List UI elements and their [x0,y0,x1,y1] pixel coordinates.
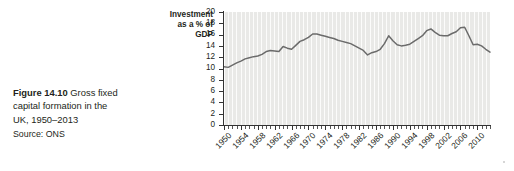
x-tick-minor [279,126,280,129]
scan-artifact-speck [503,161,505,163]
x-tick-minor [262,126,263,129]
x-tick-minor [418,126,419,129]
figure-caption: Figure 14.10 Gross fixed capital formati… [13,86,163,142]
x-tick-minor [380,126,381,129]
x-tick-label: 1958 [248,131,267,150]
y-tick-label: 18 [161,19,215,27]
caption-line-1: Figure 14.10 Gross fixed [13,86,163,99]
series-line [224,12,490,125]
x-tick-minor [422,126,423,129]
x-tick-minor [266,126,267,129]
x-tick-label: 1982 [349,131,368,150]
x-tick-minor [270,126,271,129]
x-tick-label: 1990 [383,131,402,150]
x-tick-label: 2002 [433,131,452,150]
x-tick-minor [431,126,432,129]
y-tick [219,69,223,70]
x-tick-minor [448,126,449,129]
x-tick-minor [304,126,305,129]
x-tick-major [410,126,411,130]
x-tick-label: 1962 [264,131,283,150]
x-tick-minor [439,126,440,129]
x-tick-minor [384,126,385,129]
x-tick-major [359,126,360,130]
x-tick-minor [330,126,331,129]
plot-area [224,12,490,125]
x-tick-minor [355,126,356,129]
y-tick [219,46,223,47]
y-tick-label: 20 [161,8,215,16]
y-axis-line [223,11,224,126]
y-tick [219,102,223,103]
y-tick [219,23,223,24]
y-tick-label: 2 [161,110,215,118]
figure-number: Figure 14.10 [13,87,68,98]
x-tick-minor [465,126,466,129]
y-tick-label: 6 [161,87,215,95]
x-tick-minor [473,126,474,129]
x-tick-minor [245,126,246,129]
y-tick-label: 4 [161,98,215,106]
caption-source: Source: ONS [13,128,163,141]
x-tick-label: 1966 [281,131,300,150]
x-tick-minor [313,126,314,129]
x-tick-minor [490,126,491,129]
x-tick-label: 1954 [231,131,250,150]
x-tick-minor [397,126,398,129]
x-tick-major [275,126,276,130]
line-chart: Investment as a % of GDP 201816141210864… [155,8,505,168]
y-tick-label: 14 [161,42,215,50]
x-tick-major [241,126,242,130]
x-tick-major [342,126,343,130]
x-tick-minor [317,126,318,129]
x-tick-minor [469,126,470,129]
x-tick-minor [486,126,487,129]
x-tick-label: 1994 [400,131,419,150]
x-tick-major [376,126,377,130]
x-tick-major [477,126,478,130]
caption-line-2: capital formation in the [13,99,163,112]
x-tick-minor [406,126,407,129]
x-tick-label: 1978 [332,131,351,150]
y-tick-label: 12 [161,53,215,61]
x-tick-label: 1970 [298,131,317,150]
x-tick-minor [389,126,390,129]
x-tick-minor [334,126,335,129]
y-tick [219,125,223,126]
x-tick-label: 1998 [416,131,435,150]
x-tick-major [224,126,225,130]
x-tick-minor [346,126,347,129]
x-tick-minor [249,126,250,129]
x-tick-minor [435,126,436,129]
x-tick-minor [482,126,483,129]
x-tick-minor [254,126,255,129]
y-tick [219,80,223,81]
x-tick-major [427,126,428,130]
y-tick-label: 10 [161,64,215,72]
y-tick [219,35,223,36]
x-tick-minor [228,126,229,129]
y-tick [219,12,223,13]
caption-line-3: UK, 1950–2013 [13,113,163,126]
x-tick-major [292,126,293,130]
y-tick [219,57,223,58]
x-tick-minor [372,126,373,129]
x-tick-minor [232,126,233,129]
x-tick-label: 1986 [366,131,385,150]
x-tick-label: 2010 [467,131,486,150]
x-tick-minor [351,126,352,129]
y-tick-label: 16 [161,30,215,38]
x-tick-label: 1974 [315,131,334,150]
y-tick [219,114,223,115]
x-tick-minor [237,126,238,129]
x-tick-major [325,126,326,130]
x-axis-line [223,125,491,126]
x-tick-major [393,126,394,130]
x-tick-minor [452,126,453,129]
x-tick-minor [283,126,284,129]
y-tick [219,91,223,92]
x-tick-minor [296,126,297,129]
x-tick-major [444,126,445,130]
caption-line-1-rest: Gross fixed [68,87,118,98]
y-tick-label: 8 [161,76,215,84]
